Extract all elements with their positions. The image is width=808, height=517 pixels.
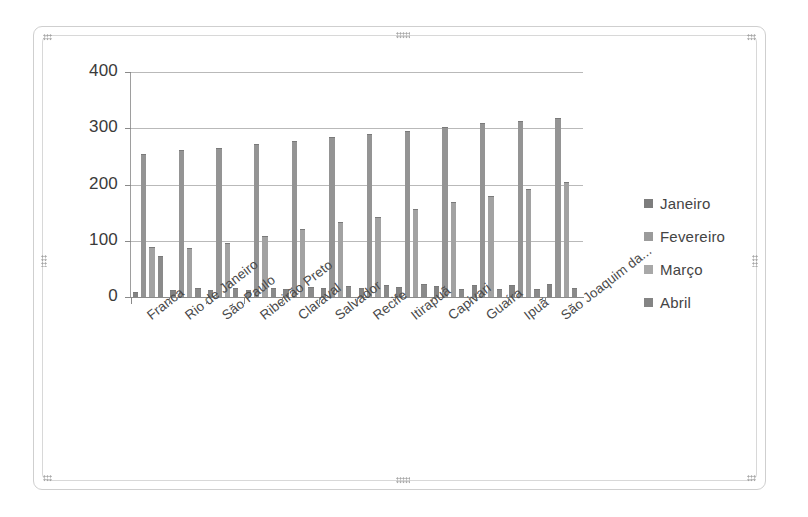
legend-swatch-icon	[644, 298, 653, 307]
x-axis-tick	[432, 298, 433, 304]
x-axis-tick	[357, 298, 358, 304]
x-axis-tick	[319, 298, 320, 304]
chart-object[interactable]: 0100200300400 FrancaRio de JaneiroSão Pa…	[33, 26, 766, 490]
x-axis-tick	[169, 298, 170, 304]
legend-label: Janeiro	[660, 195, 711, 212]
x-axis-tick	[244, 298, 245, 304]
x-axis-tick	[395, 298, 396, 304]
legend-swatch-icon	[644, 232, 653, 241]
legend-swatch-icon	[644, 199, 653, 208]
x-axis-tick	[470, 298, 471, 304]
x-axis-category-label: São Joaquim da...	[558, 243, 654, 323]
x-axis-tick	[131, 298, 132, 304]
x-axis-tick	[508, 298, 509, 304]
legend-item[interactable]: Abril	[644, 286, 764, 319]
legend-item[interactable]: Janeiro	[644, 187, 764, 220]
chart-legend[interactable]: JaneiroFevereiroMarçoAbril	[644, 187, 764, 319]
legend-item[interactable]: Março	[644, 253, 764, 286]
legend-label: Fevereiro	[660, 228, 725, 245]
x-axis-tick	[206, 298, 207, 304]
legend-item[interactable]: Fevereiro	[644, 220, 764, 253]
x-axis-category-label: Itirapuã	[408, 283, 453, 323]
legend-swatch-icon	[644, 265, 653, 274]
chart-plot-wrapper: 0100200300400 FrancaRio de JaneiroSão Pa…	[34, 27, 767, 491]
x-axis-tick	[282, 298, 283, 304]
legend-label: Abril	[660, 294, 691, 311]
legend-label: Março	[660, 261, 703, 278]
x-axis-category-label: Franca	[144, 285, 187, 323]
x-axis-tick	[545, 298, 546, 304]
